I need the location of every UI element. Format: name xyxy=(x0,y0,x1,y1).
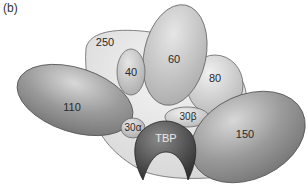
label-110: 110 xyxy=(63,101,81,113)
label-250: 250 xyxy=(96,36,114,48)
label-30b: 30β xyxy=(180,111,197,122)
label-40: 40 xyxy=(125,66,137,78)
label-80: 80 xyxy=(209,72,221,84)
label-30a: 30α xyxy=(125,122,142,133)
label-60: 60 xyxy=(168,53,180,65)
label-tbp: TBP xyxy=(155,132,176,144)
label-150: 150 xyxy=(236,128,254,140)
tfiid-diagram: 250 110 40 60 80 30β 30α TBP 150 xyxy=(0,0,308,188)
